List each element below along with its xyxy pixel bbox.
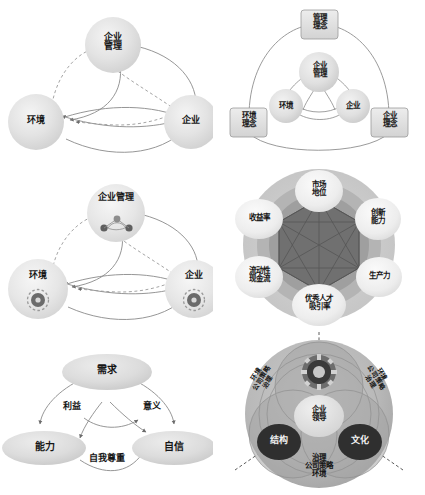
d1-node-enterprise[interactable]	[164, 95, 213, 149]
d4-bubble-return-rate[interactable]	[235, 199, 283, 239]
d4-bubble-cash-flow[interactable]	[235, 256, 283, 298]
d4-bubble-innovation[interactable]	[355, 198, 401, 240]
diagram-three-sphere-management-model: 企业管理 环境 企业	[0, 0, 213, 165]
d2-box-enterprise-concept[interactable]	[371, 108, 408, 137]
d5-node-confidence[interactable]	[132, 431, 213, 465]
d6-canvas	[213, 330, 425, 495]
diagram-corporate-leadership-sphere: 企业领导 结构 文化 环境公司策略治理 环境公司策略治理 治理公司策略环境	[213, 330, 425, 495]
d2-node-enterprise[interactable]	[336, 89, 370, 123]
d4-bubble-productivity[interactable]	[356, 257, 402, 297]
diagram-concept-layer-management-model: 管理理念 环境理念 企业理念 企业管理 环境 企业	[213, 0, 425, 165]
d4-canvas	[213, 165, 425, 330]
d1-node-environment[interactable]	[8, 94, 64, 150]
d5-node-ability[interactable]	[2, 431, 86, 465]
d6-node-culture[interactable]	[338, 424, 382, 460]
diagram-sheet: 企业管理 环境 企业	[0, 0, 425, 495]
d4-bubble-market-position[interactable]	[295, 170, 343, 212]
d3-node-management[interactable]	[87, 184, 145, 242]
d6-node-leadership[interactable]	[294, 395, 344, 437]
d6-node-structure[interactable]	[257, 424, 301, 460]
diagram-needs-ability-confidence-triangle: 需求 能力 自信 利益 意义 自我尊重	[0, 330, 213, 495]
diagram-six-factor-performance-wheel: 市场地位 创新能力 生产力 优秀人才吸引率 流动性现金流 收益率	[213, 165, 425, 330]
d2-node-management[interactable]	[299, 52, 339, 92]
d2-box-management-concept[interactable]	[301, 10, 338, 39]
diagram-three-sphere-with-icons: 企业管理 环境 企业	[0, 165, 213, 330]
d3-canvas	[0, 165, 213, 330]
d1-canvas	[0, 0, 213, 165]
d5-node-need[interactable]	[62, 354, 152, 390]
d1-node-management[interactable]	[85, 17, 141, 73]
d2-canvas	[213, 0, 425, 165]
d2-box-environment-concept[interactable]	[230, 108, 267, 137]
d2-node-environment[interactable]	[269, 89, 303, 123]
d5-canvas	[0, 330, 213, 495]
d4-bubble-talent-attraction[interactable]	[292, 284, 346, 326]
